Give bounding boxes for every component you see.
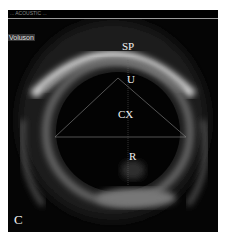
header-text: ... ACOUSTIC ... <box>10 10 47 16</box>
device-label: Voluson <box>8 34 35 41</box>
ultrasound-header-bar: ... ACOUSTIC ... <box>8 10 218 19</box>
ultrasound-echo-graphic <box>8 10 218 232</box>
label-r: R <box>129 150 136 162</box>
panel-letter: C <box>14 212 23 228</box>
ultrasound-image: ... ACOUSTIC ... Voluson SP U CX R C <box>8 10 218 232</box>
label-cx: CX <box>118 108 133 120</box>
label-sp: SP <box>122 40 134 52</box>
label-u: U <box>127 73 135 85</box>
